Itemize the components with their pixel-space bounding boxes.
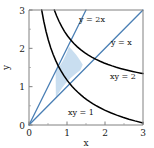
x-axis-title: x (83, 138, 88, 148)
label-xy-equals-2: xy = 2 (110, 72, 136, 81)
y-tick-label-2: 2 (19, 44, 25, 54)
y-axis-title: y (1, 64, 11, 71)
label-xy-equals-1: xy = 1 (68, 108, 94, 117)
x-tick-label-3: 3 (140, 128, 146, 138)
y-tick-label-0: 0 (19, 121, 25, 131)
figure-container: 0 1 2 3 0 1 2 3 x y y = 2x y = x xy = 2 … (0, 0, 154, 148)
y-tick-label-1: 1 (19, 82, 25, 92)
x-tick-label-0: 0 (26, 128, 32, 138)
label-y-equals-2x: y = 2x (78, 15, 105, 24)
label-y-equals-x: y = x (110, 38, 132, 47)
x-tick-label-2: 2 (102, 128, 108, 138)
x-tick-label-1: 1 (64, 128, 70, 138)
plot-svg: 0 1 2 3 0 1 2 3 x y y = 2x y = x xy = 2 … (0, 0, 154, 148)
y-tick-label-3: 3 (19, 6, 25, 16)
